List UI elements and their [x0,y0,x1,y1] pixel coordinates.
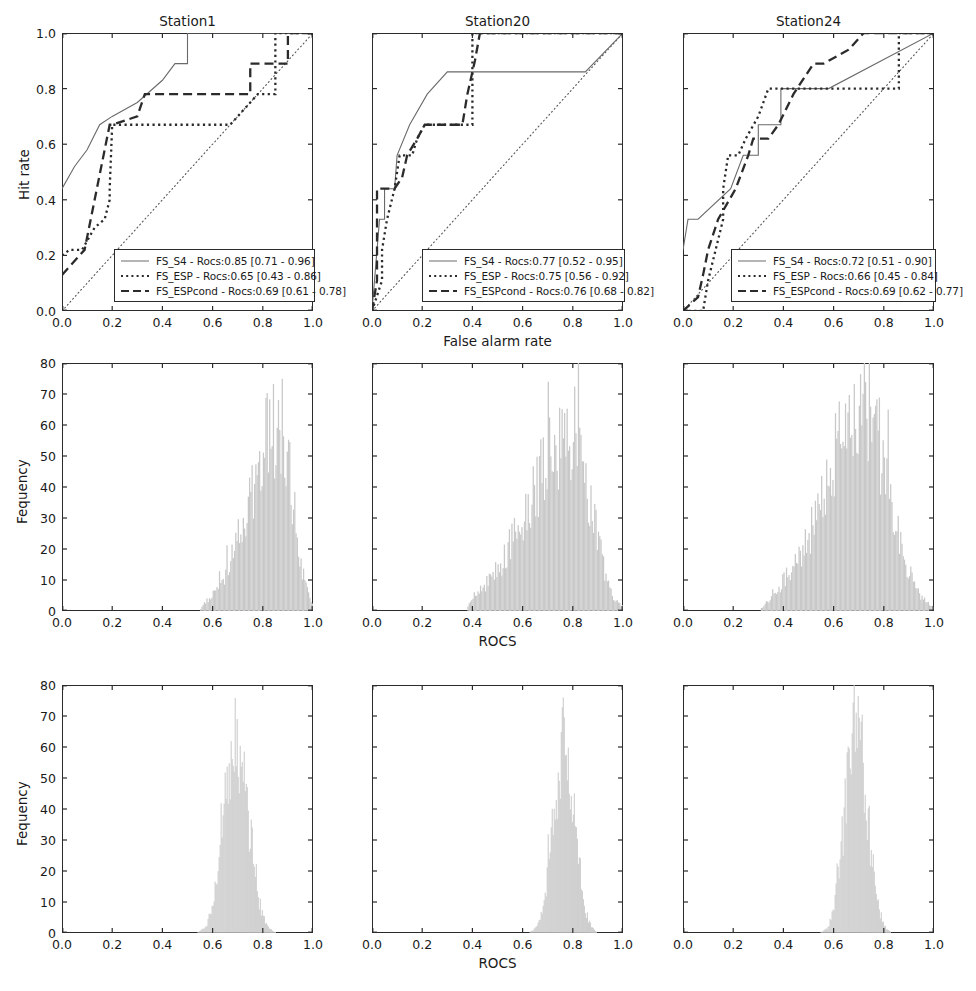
row1-xlabel: False alarm rate [372,333,623,349]
roc-legend-1: FS_S4 - Rocs:0.85 [0.71 - 0.96]FS_ESP - … [114,249,315,302]
x-tick-label: 0.6 [203,615,223,630]
y-tick-label: 0.0 [18,304,56,319]
panel-title: Station24 [683,13,934,29]
x-tick-label: 0.8 [253,937,273,952]
legend-key-dotted [426,270,460,282]
x-tick-label: 0.0 [362,937,382,952]
y-tick-label: 80 [18,356,56,371]
roc-legend-2: FS_S4 - Rocs:0.77 [0.52 - 0.95]FS_ESP - … [422,249,625,302]
x-tick-label: 0.0 [362,315,382,330]
hist-panel-r2-c2 [372,363,623,611]
x-tick-label: 0.6 [513,615,533,630]
row3-xlabel: ROCS [372,955,623,971]
y-tick-label: 20 [18,542,56,557]
x-tick-label: 0.8 [253,315,273,330]
x-tick-label: 0.6 [513,937,533,952]
y-tick-label: 60 [18,740,56,755]
row3-ylabel: Fequency [14,781,30,846]
axis-ticks [372,363,623,611]
x-tick-label: 0.4 [152,615,172,630]
legend-entry: FS_ESP - Rocs:0.65 [0.43 - 0.86] [118,268,310,283]
hist-panel-r2-c1 [62,363,313,611]
y-tick-label: 0 [18,926,56,941]
x-tick-label: 0.8 [253,615,273,630]
hist-panel-r3-c1 [62,685,313,933]
axis-ticks [683,363,934,611]
axis-ticks [62,685,313,933]
legend-entry: FS_ESP - Rocs:0.75 [0.56 - 0.92] [426,268,620,283]
y-tick-label: 20 [18,864,56,879]
y-tick-label: 70 [18,387,56,402]
x-tick-label: 0.8 [563,615,583,630]
hist-panel-r3-c3 [683,685,934,933]
x-tick-label: 0.4 [773,615,793,630]
x-tick-label: 0.2 [412,937,432,952]
x-tick-label: 0.0 [673,615,693,630]
legend-entry: FS_S4 - Rocs:0.77 [0.52 - 0.95] [426,253,620,268]
y-tick-label: 70 [18,709,56,724]
x-tick-label: 0.2 [412,615,432,630]
x-tick-label: 0.4 [152,937,172,952]
legend-label: FS_ESP - Rocs:0.65 [0.43 - 0.86] [152,270,321,282]
legend-label: FS_ESP - Rocs:0.66 [0.45 - 0.84] [769,270,938,282]
legend-entry: FS_ESPcond - Rocs:0.69 [0.61 - 0.78] [118,283,310,298]
x-tick-label: 1.0 [613,315,633,330]
x-tick-label: 0.8 [874,615,894,630]
legend-key-dotted [735,270,769,282]
x-tick-label: 0.0 [673,315,693,330]
legend-label: FS_ESPcond - Rocs:0.69 [0.61 - 0.78] [152,285,346,297]
y-tick-label: 80 [18,678,56,693]
x-tick-label: 0.0 [362,615,382,630]
axis-ticks [372,685,623,933]
row1-ylabel: Hit rate [16,149,32,200]
x-tick-label: 0.0 [673,937,693,952]
y-tick-label: 60 [18,418,56,433]
legend-entry: FS_ESPcond - Rocs:0.69 [0.62 - 0.77] [735,283,931,298]
x-tick-label: 0.2 [102,937,122,952]
y-tick-label: 10 [18,895,56,910]
legend-key-dotted [118,270,152,282]
x-tick-label: 0.8 [874,937,894,952]
legend-key-solid [426,255,460,267]
legend-label: FS_S4 - Rocs:0.77 [0.52 - 0.95] [460,255,623,267]
x-tick-label: 0.6 [203,315,223,330]
legend-label: FS_S4 - Rocs:0.72 [0.51 - 0.90] [769,255,932,267]
x-tick-label: 0.4 [773,937,793,952]
hist-panel-r3-c2 [372,685,623,933]
x-tick-label: 0.8 [874,315,894,330]
legend-label: FS_ESPcond - Rocs:0.76 [0.68 - 0.82] [460,285,654,297]
x-tick-label: 0.4 [462,615,482,630]
x-tick-label: 0.6 [824,937,844,952]
hist-panel-r2-c3 [683,363,934,611]
x-tick-label: 1.0 [303,937,323,952]
legend-label: FS_S4 - Rocs:0.85 [0.71 - 0.96] [152,255,315,267]
legend-key-dashed [735,285,769,297]
x-tick-label: 1.0 [924,615,944,630]
legend-key-dashed [426,285,460,297]
row2-ylabel: Fequency [14,459,30,524]
axis-ticks [683,685,934,933]
x-tick-label: 1.0 [613,615,633,630]
legend-entry: FS_ESPcond - Rocs:0.76 [0.68 - 0.82] [426,283,620,298]
y-tick-label: 0 [18,604,56,619]
x-tick-label: 0.4 [462,315,482,330]
panel-title: Station20 [372,13,623,29]
legend-entry: FS_S4 - Rocs:0.85 [0.71 - 0.96] [118,253,310,268]
legend-key-solid [118,255,152,267]
legend-key-dashed [118,285,152,297]
x-tick-label: 0.2 [102,315,122,330]
x-tick-label: 0.2 [412,315,432,330]
x-tick-label: 0.4 [773,315,793,330]
roc-panel-2: Station20FS_S4 - Rocs:0.77 [0.52 - 0.95]… [372,33,623,311]
y-tick-label: 0.2 [18,248,56,263]
y-tick-label: 0.8 [18,81,56,96]
legend-label: FS_ESPcond - Rocs:0.69 [0.62 - 0.77] [769,285,963,297]
legend-entry: FS_S4 - Rocs:0.72 [0.51 - 0.90] [735,253,931,268]
y-tick-label: 1.0 [18,26,56,41]
x-tick-label: 0.6 [513,315,533,330]
legend-label: FS_ESP - Rocs:0.75 [0.56 - 0.92] [460,270,629,282]
roc-panel-1: Station1FS_S4 - Rocs:0.85 [0.71 - 0.96]F… [62,33,313,311]
x-tick-label: 1.0 [303,615,323,630]
x-tick-label: 0.2 [723,315,743,330]
x-tick-label: 0.2 [723,937,743,952]
